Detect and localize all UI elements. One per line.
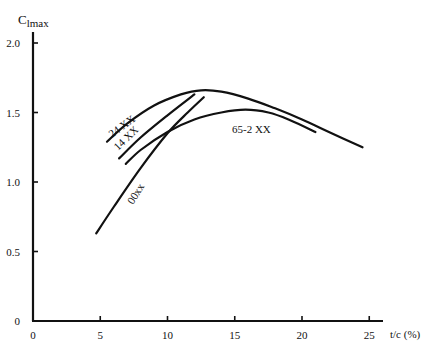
y-tick-label: 0: [15, 315, 21, 327]
series-lines: [96, 90, 362, 233]
series-line-24-xx: [107, 90, 363, 147]
axes: [32, 32, 383, 321]
x-tick-label: 0: [30, 329, 36, 341]
x-tick-label: 10: [162, 329, 174, 341]
y-tick-label: 1.0: [6, 176, 20, 188]
ticks: 00.51.01.52.00510152025: [6, 37, 375, 341]
series-line-00xx: [96, 97, 204, 233]
x-tick-label: 25: [364, 329, 376, 341]
x-tick-label: 5: [98, 329, 104, 341]
series-line-65-2-xx: [126, 110, 316, 164]
x-tick-label: 20: [297, 329, 309, 341]
y-axis-label: Clmax: [18, 12, 49, 29]
y-tick-label: 0.5: [6, 246, 20, 258]
chart: Clmax t/c (%) 00.51.01.52.00510152025 24…: [0, 0, 430, 358]
x-axis-label: t/c (%): [390, 328, 421, 341]
y-tick-label: 2.0: [6, 37, 20, 49]
series-label-65-2-xx: 65-2 XX: [232, 123, 271, 135]
y-tick-label: 1.5: [6, 107, 20, 119]
x-tick-label: 15: [229, 329, 241, 341]
chart-canvas: Clmax t/c (%) 00.51.01.52.00510152025 24…: [0, 0, 430, 358]
